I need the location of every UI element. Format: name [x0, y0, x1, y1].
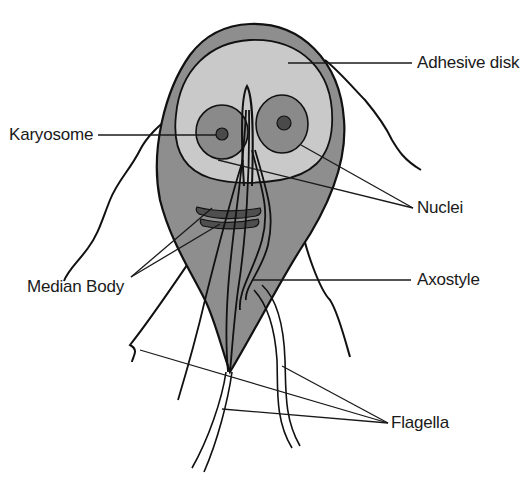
diagram-canvas — [0, 0, 531, 482]
label-karyosome: Karyosome — [9, 126, 93, 143]
giardia-diagram: Adhesive disk Karyosome Nuclei Median Bo… — [0, 0, 531, 482]
karyosome-right — [277, 116, 291, 130]
label-flagella: Flagella — [391, 414, 449, 431]
label-median-body: Median Body — [27, 278, 124, 295]
label-nuclei: Nuclei — [417, 199, 463, 216]
adhesive-disk — [175, 40, 332, 183]
karyosome-left — [216, 128, 228, 140]
label-adhesive-disk: Adhesive disk — [417, 54, 519, 71]
label-axostyle: Axostyle — [417, 271, 480, 288]
